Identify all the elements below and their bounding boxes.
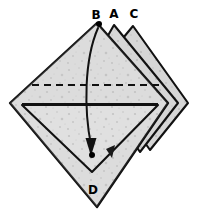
vertex-dot-b bbox=[96, 21, 102, 27]
vertex-label-d: D bbox=[88, 183, 98, 197]
paper-folding-figure: B A C D bbox=[0, 0, 203, 218]
vertex-dot-target bbox=[89, 152, 95, 158]
vertex-label-a: A bbox=[109, 7, 119, 21]
vertex-label-b: B bbox=[91, 8, 100, 22]
figure-canvas: B A C D bbox=[0, 0, 203, 218]
vertex-label-c: C bbox=[130, 7, 139, 21]
